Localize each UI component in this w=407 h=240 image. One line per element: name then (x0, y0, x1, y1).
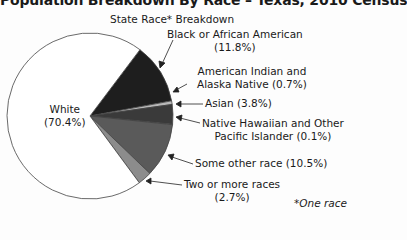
label-black-name: Black or African American (167, 28, 303, 41)
label-american-indian-line2: Alaska Native (0.7%) (197, 78, 307, 91)
footnote: *One race (294, 197, 347, 209)
label-black-pct: (11.8%) (167, 41, 303, 54)
label-nhpi: Native Hawaiian and Other Pacific Island… (202, 117, 344, 143)
label-two-or-more: Two or more races (2.7%) (184, 178, 280, 204)
label-white-name: White (44, 103, 86, 116)
label-some-other-race: Some other race (10.5%) (195, 157, 327, 170)
label-asian-text: Asian (3.8%) (205, 97, 272, 110)
label-some-other-race-text: Some other race (10.5%) (195, 157, 327, 170)
label-white: White (70.4%) (44, 103, 86, 129)
label-two-or-more-line2: (2.7%) (184, 191, 280, 204)
label-white-pct: (70.4%) (44, 116, 86, 129)
label-american-indian: American Indian and Alaska Native (0.7%) (197, 65, 307, 91)
label-nhpi-line1: Native Hawaiian and Other (202, 117, 344, 130)
label-black: Black or African American (11.8%) (167, 28, 303, 54)
label-two-or-more-line1: Two or more races (184, 178, 280, 191)
label-american-indian-line1: American Indian and (197, 65, 307, 78)
label-nhpi-line2: Pacific Islander (0.1%) (202, 130, 344, 143)
pie-slices (7, 33, 173, 199)
label-asian: Asian (3.8%) (205, 97, 272, 110)
